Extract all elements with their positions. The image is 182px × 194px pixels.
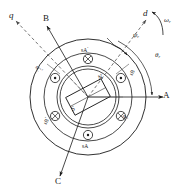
coil-label-sA: sA [82,142,88,149]
pmsm-cross-section-diagram: A B C d q θr ψr ωr sA′ sB sC sA sB′ sC′ … [0,0,182,194]
coil-label-sA-prime-mark: ′ [87,46,88,51]
coil-sB-prime [51,111,60,120]
coil-label-sA-text: sA [82,143,88,149]
coil-sA-prime [83,54,92,63]
machine-drawing [0,0,182,194]
coil-sC-prime [51,73,60,82]
coil-sB [116,73,125,82]
psi-subscript: r [137,34,139,39]
axis-label-q: q [9,11,14,20]
coil-sA [83,130,92,139]
angle-label-omega-r: ωr [164,17,171,24]
coil-label-sA-prime: sA′ [81,46,88,53]
rotation-arrow-omega-r [152,12,163,35]
axis-label-B: B [43,14,49,23]
axis-label-d: d [143,9,148,18]
omega-subscript: r [169,19,171,24]
angle-label-psi-r: ψr [133,32,139,39]
axis-label-A: A [163,91,170,100]
axis-label-C: C [55,177,61,186]
angle-label-theta-r: θr [155,52,160,59]
theta-subscript: r [158,54,160,59]
